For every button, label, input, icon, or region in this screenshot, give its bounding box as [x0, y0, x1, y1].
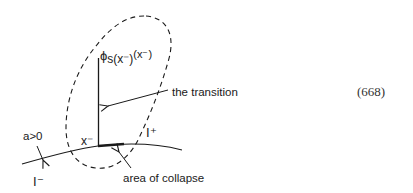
phi-subscript: s(x⁻) — [107, 52, 133, 66]
equation-number: (668) — [357, 84, 385, 99]
a-arrow — [37, 146, 43, 160]
transition-arrow — [108, 90, 168, 106]
phi-argument: (x⁻) — [133, 48, 152, 60]
phi-label: ϕs(x⁻)(x⁻) — [100, 48, 152, 66]
a-positive-label: a>0 — [23, 130, 43, 142]
i-minus-label: I⁻ — [33, 174, 44, 189]
transition-label: the transition — [172, 86, 238, 98]
collapse-label: area of collapse — [123, 172, 204, 184]
collapse-arrow — [119, 152, 131, 168]
i-plus-label: I⁺ — [146, 125, 157, 140]
horizon-curve — [22, 144, 182, 164]
collapse-segment — [98, 144, 124, 146]
x-minus-label: x⁻ — [81, 134, 93, 148]
diagram-canvas: ϕs(x⁻)(x⁻) the transition x⁻ I⁺ I⁻ a>0 a… — [0, 0, 413, 193]
phi-symbol: ϕ — [100, 48, 107, 63]
